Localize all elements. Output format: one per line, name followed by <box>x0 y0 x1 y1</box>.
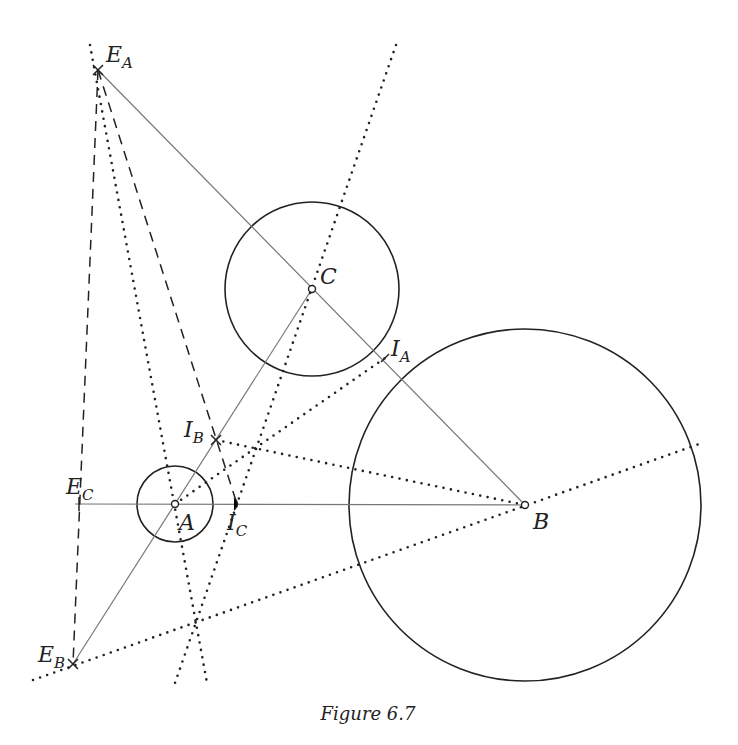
point-b <box>522 502 529 509</box>
label-ea: EA <box>105 42 133 72</box>
label-a: A <box>177 510 195 535</box>
label-b: B <box>532 509 549 534</box>
dotted-a-ia <box>175 358 385 504</box>
label-ib: IB <box>183 417 204 447</box>
dashed-ea-eb <box>73 70 98 664</box>
point-eb <box>68 659 78 669</box>
dotted-eb-b <box>33 443 702 680</box>
label-ic: IC <box>226 510 248 540</box>
point-a <box>172 501 179 508</box>
point-ib <box>211 435 221 445</box>
label-c: C <box>320 264 337 289</box>
point-c <box>309 286 316 293</box>
line-ec-b <box>75 504 525 505</box>
dotted-ib-b <box>216 440 525 505</box>
dotted-c-bisector <box>175 45 396 683</box>
point-ia <box>381 354 389 362</box>
figure-caption: Figure 6.7 <box>320 703 417 724</box>
point-ic <box>234 498 238 510</box>
label-ia: IA <box>390 336 411 366</box>
geometry-figure: EA C IA IB EC A IC B EB Figure 6.7 <box>0 0 738 745</box>
label-eb: EB <box>37 642 65 672</box>
dotted-ea-bisector <box>90 45 207 683</box>
line-eb-c <box>73 289 312 664</box>
